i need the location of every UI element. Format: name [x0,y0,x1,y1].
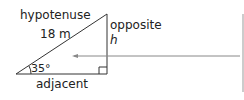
right-triangle [16,14,107,74]
hypotenuse-label: hypotenuse [20,8,91,22]
hypotenuse-length: 18 m [40,27,71,41]
adjacent-label: adjacent [36,77,88,91]
opposite-label: opposite [110,18,162,32]
opposite-variable: h [110,33,118,47]
arrow-head-icon [72,54,78,58]
angle-label: 35° [31,62,51,75]
right-angle-marker [99,67,107,74]
